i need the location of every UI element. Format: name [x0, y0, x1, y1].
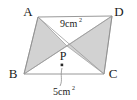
- edge-ad: [38, 16, 112, 17]
- leader-line: [60, 68, 62, 86]
- vertex-label-a: A: [23, 4, 33, 19]
- top-area-label-superscript: 2: [79, 17, 82, 23]
- point-label-p: P: [60, 49, 67, 63]
- vertex-label-c: C: [109, 66, 118, 81]
- vertex-label-b: B: [9, 66, 18, 81]
- bottom-area-label: 5cm: [53, 86, 70, 97]
- geometry-canvas: A D B C P 9cm 2 5cm 2: [0, 0, 137, 100]
- vertex-label-d: D: [114, 4, 123, 19]
- bottom-area-label-superscript: 2: [72, 85, 75, 91]
- top-area-label: 9cm: [60, 18, 77, 29]
- marker-dot: [61, 64, 64, 67]
- geometry-figure: A D B C P 9cm 2 5cm 2: [0, 0, 137, 100]
